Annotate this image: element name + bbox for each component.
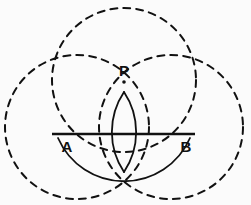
diagram-canvas: P A B bbox=[0, 0, 251, 205]
label-b: B bbox=[181, 138, 192, 155]
geometry-diagram: P A B bbox=[0, 0, 251, 205]
diagram-background bbox=[0, 0, 251, 205]
label-p: P bbox=[119, 62, 129, 79]
label-a: A bbox=[62, 138, 73, 155]
point-p-marker bbox=[122, 80, 126, 84]
points-group bbox=[122, 80, 126, 84]
